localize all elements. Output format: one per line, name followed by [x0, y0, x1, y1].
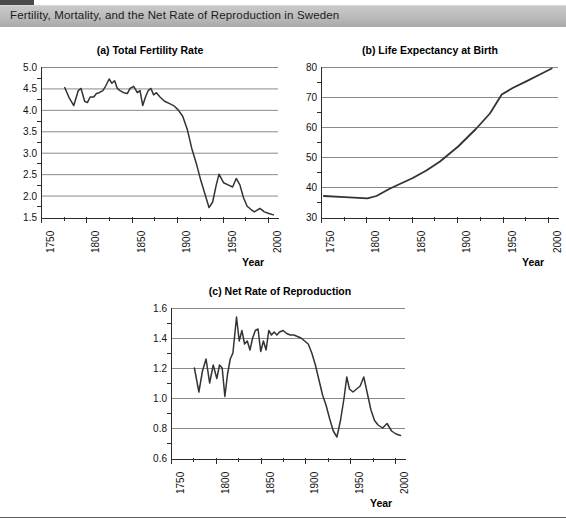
y-minor-tick-b [317, 112, 321, 113]
x-minor-tick-a [64, 217, 65, 221]
y-tick-label-b: 40 [290, 182, 317, 193]
data-line-c [194, 317, 400, 437]
x-tick-label-a: 1850 [136, 231, 147, 253]
x-tick-label-b: 2000 [552, 231, 563, 253]
x-tick-label-c: 1850 [265, 472, 276, 494]
y-tick-label-b: 50 [290, 152, 317, 163]
x-minor-tick-c [373, 458, 374, 462]
y-minor-tick-a [37, 185, 41, 186]
x-axis-label-a: Year [242, 256, 264, 268]
chart-title-c: (c) Net Rate of Reproduction [160, 285, 400, 297]
x-tick-label-c: 2000 [399, 472, 410, 494]
y-tick-label-a: 4.0 [10, 104, 37, 115]
y-minor-tick-a [37, 206, 41, 207]
x-minor-tick-a [109, 217, 110, 221]
x-major-tick-a [41, 217, 42, 223]
chart-panel-net-rate-of-reproduction: (c) Net Rate of Reproduction 0.60.81.01.… [140, 285, 420, 515]
x-major-tick-b [321, 217, 322, 223]
x-tick-label-a: 1750 [45, 231, 56, 253]
x-major-tick-b [457, 217, 458, 223]
x-minor-tick-b [525, 217, 526, 221]
x-tick-label-b: 1750 [325, 231, 336, 253]
y-tick-label-a: 2.0 [10, 190, 37, 201]
y-tick-label-c: 1.2 [140, 363, 167, 374]
title-banner: Fertility, Mortality, and the Net Rate o… [0, 5, 566, 27]
x-tick-label-a: 1950 [227, 231, 238, 253]
x-tick-label-b: 1800 [370, 231, 381, 253]
y-minor-tick-c [167, 353, 171, 354]
y-minor-tick-c [167, 383, 171, 384]
y-tick-label-c: 0.6 [140, 453, 167, 464]
x-minor-tick-a [245, 217, 246, 221]
y-tick-label-b: 70 [290, 92, 317, 103]
x-major-tick-b [503, 217, 504, 223]
y-minor-tick-c [167, 443, 171, 444]
y-minor-tick-a [37, 142, 41, 143]
chart-title-a: (a) Total Fertility Rate [30, 44, 270, 56]
x-axis-label-b: Year [522, 256, 544, 268]
x-axis-label-c: Year [370, 497, 392, 509]
chart-svg-c [172, 308, 405, 458]
x-minor-tick-a [200, 217, 201, 221]
x-minor-tick-c [193, 458, 194, 462]
x-tick-label-b: 1950 [507, 231, 518, 253]
gridlines-c [172, 309, 405, 459]
y-tick-label-a: 2.5 [10, 169, 37, 180]
y-tick-label-a: 3.0 [10, 147, 37, 158]
plot-area-c [171, 308, 406, 460]
data-line-a [65, 79, 274, 215]
y-minor-tick-a [37, 78, 41, 79]
y-minor-tick-a [37, 163, 41, 164]
x-minor-tick-b [434, 217, 435, 221]
x-major-tick-c [350, 458, 351, 464]
footer-divider [0, 517, 566, 518]
data-line-b [324, 69, 552, 199]
chart-svg-b [322, 67, 558, 217]
plot-area-a [41, 67, 279, 219]
y-tick-label-b: 60 [290, 122, 317, 133]
y-minor-tick-c [167, 413, 171, 414]
x-tick-label-b: 1850 [416, 231, 427, 253]
y-minor-tick-c [167, 323, 171, 324]
y-minor-tick-a [37, 121, 41, 122]
chart-panel-total-fertility-rate: (a) Total Fertility Rate 1.52.02.53.03.5… [10, 44, 282, 274]
x-major-tick-b [366, 217, 367, 223]
x-tick-label-b: 1900 [461, 231, 472, 253]
x-minor-tick-b [480, 217, 481, 221]
x-major-tick-a [268, 217, 269, 223]
y-minor-tick-b [317, 202, 321, 203]
y-tick-label-a: 1.5 [10, 212, 37, 223]
x-major-tick-c [171, 458, 172, 464]
x-major-tick-a [177, 217, 178, 223]
y-tick-label-c: 1.4 [140, 333, 167, 344]
x-major-tick-c [216, 458, 217, 464]
x-major-tick-b [548, 217, 549, 223]
x-minor-tick-c [328, 458, 329, 462]
x-tick-label-c: 1750 [175, 472, 186, 494]
x-minor-tick-b [344, 217, 345, 221]
chart-panel-life-expectancy: (b) Life Expectancy at Birth 30405060708… [290, 44, 562, 274]
y-minor-tick-a [37, 99, 41, 100]
x-major-tick-a [132, 217, 133, 223]
x-major-tick-c [395, 458, 396, 464]
y-minor-tick-b [317, 82, 321, 83]
x-major-tick-a [86, 217, 87, 223]
page-title: Fertility, Mortality, and the Net Rate o… [10, 9, 339, 21]
x-major-tick-c [261, 458, 262, 464]
x-tick-label-c: 1900 [309, 472, 320, 494]
x-tick-label-a: 1900 [181, 231, 192, 253]
x-major-tick-a [223, 217, 224, 223]
x-major-tick-b [412, 217, 413, 223]
y-tick-label-a: 3.5 [10, 126, 37, 137]
y-tick-label-c: 1.6 [140, 303, 167, 314]
x-tick-label-a: 2000 [272, 231, 283, 253]
chart-title-b: (b) Life Expectancy at Birth [310, 44, 550, 56]
x-tick-label-c: 1800 [220, 472, 231, 494]
y-tick-label-a: 5.0 [10, 62, 37, 73]
x-tick-label-a: 1800 [90, 231, 101, 253]
y-minor-tick-b [317, 142, 321, 143]
x-major-tick-c [305, 458, 306, 464]
x-minor-tick-b [389, 217, 390, 221]
gridlines-b [322, 68, 558, 218]
y-minor-tick-b [317, 172, 321, 173]
